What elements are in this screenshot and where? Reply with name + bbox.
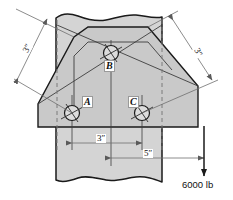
bolt-label-c: C	[128, 96, 139, 108]
dimension-label-bottom-5in: 5″	[143, 149, 153, 158]
bolt-label-a: A	[82, 96, 93, 108]
load-label: 6000 lb	[182, 180, 213, 190]
figure-container: A B C 3″ 3″ 3″ 5″ 6000 lb	[0, 0, 233, 200]
dimension-label-bottom-3in: 3″	[96, 134, 106, 143]
bracket-plate-diagram	[0, 0, 233, 200]
bolt-label-b: B	[104, 60, 115, 72]
